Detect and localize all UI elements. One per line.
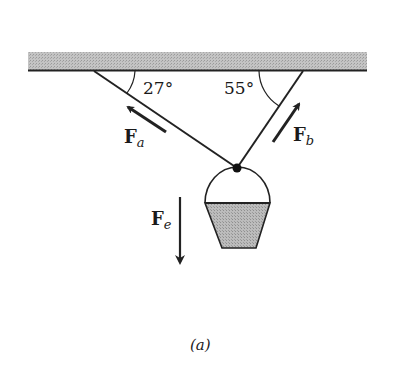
bucket-force-diagram: 27° 55° Fa Fb Fe (a) bbox=[0, 0, 399, 390]
force-a-label: Fa bbox=[124, 126, 145, 150]
right-angle-label: 55° bbox=[224, 78, 254, 98]
knot-point bbox=[233, 164, 242, 173]
right-angle-arc bbox=[259, 71, 279, 106]
force-e-label: Fe bbox=[151, 208, 172, 232]
ceiling bbox=[28, 52, 367, 71]
figure-caption: (a) bbox=[190, 336, 211, 354]
force-b-label: Fb bbox=[293, 124, 314, 148]
left-angle-arc bbox=[127, 71, 135, 93]
left-angle-label: 27° bbox=[143, 78, 173, 98]
bucket-body bbox=[205, 203, 270, 248]
